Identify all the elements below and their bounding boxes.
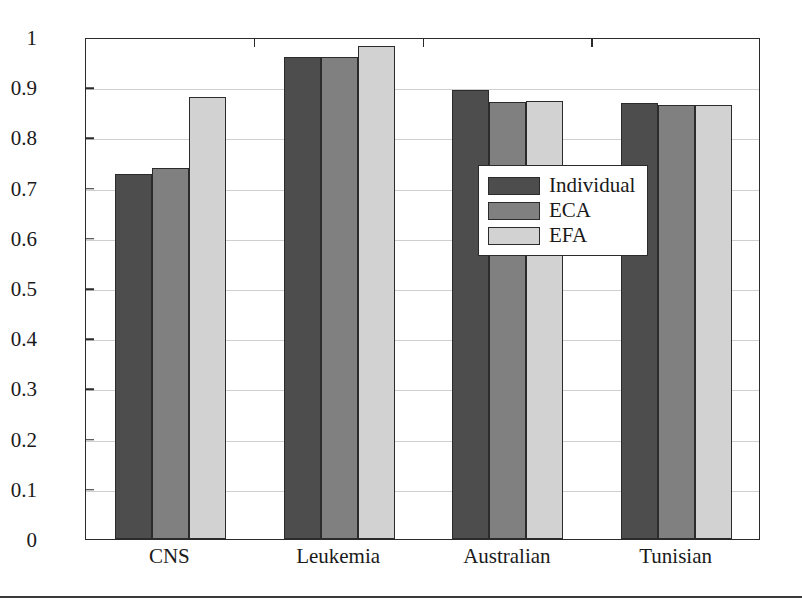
y-axis: 00.10.20.30.40.50.60.70.80.91	[0, 0, 85, 604]
y-axis-tick-label: 1	[27, 28, 38, 49]
y-axis-tick-label: 0.7	[11, 178, 37, 199]
x-axis-tick-label: Leukemia	[296, 546, 380, 567]
y-axis-tick-label: 0.9	[11, 78, 37, 99]
x-axis-tick-label: Tunisian	[639, 546, 712, 567]
y-axis-tick-mark	[85, 389, 94, 391]
x-axis-tick-mark	[591, 38, 593, 47]
gridline	[86, 89, 759, 90]
bar-cns-eca	[152, 168, 189, 539]
medium-gray-swatch	[488, 202, 540, 220]
bar-cns-efa	[189, 97, 226, 539]
y-axis-tick-label: 0.3	[11, 379, 37, 400]
y-axis-tick-label: 0	[27, 530, 38, 551]
chart-legend: IndividualECAEFA	[478, 165, 648, 256]
x-axis-tick-mark	[254, 38, 256, 47]
legend-item-label: ECA	[549, 200, 591, 221]
legend-item: EFA	[488, 223, 635, 248]
bottom-divider-rule	[0, 596, 802, 598]
x-axis-tick-mark	[423, 38, 425, 47]
bar-leukemia-eca	[321, 57, 358, 539]
bar-australian-individual	[452, 90, 489, 539]
y-axis-tick-mark	[85, 338, 94, 340]
y-axis-tick-label: 0.1	[11, 479, 37, 500]
bar-tunisian-efa	[695, 105, 732, 539]
y-axis-tick-label: 0.8	[11, 128, 37, 149]
y-axis-tick-mark	[85, 288, 94, 290]
plot-area	[85, 38, 760, 540]
y-axis-tick-label: 0.2	[11, 429, 37, 450]
y-axis-tick-mark	[85, 87, 94, 89]
legend-item-label: EFA	[549, 225, 587, 246]
y-axis-tick-label: 0.5	[11, 279, 37, 300]
y-axis-tick-label: 0.6	[11, 228, 37, 249]
light-gray-swatch	[488, 227, 540, 245]
dark-gray-swatch	[488, 177, 540, 195]
bar-chart-figure: 00.10.20.30.40.50.60.70.80.91 Individual…	[0, 0, 802, 604]
bar-tunisian-eca	[658, 105, 695, 539]
y-axis-tick-mark	[85, 138, 94, 140]
y-axis-tick-mark	[85, 439, 94, 441]
y-axis-tick-mark	[85, 238, 94, 240]
bar-cns-individual	[115, 174, 152, 539]
legend-item-label: Individual	[549, 175, 635, 196]
bar-leukemia-efa	[358, 46, 395, 539]
x-axis-tick-label: CNS	[149, 546, 190, 567]
y-axis-tick-mark	[85, 188, 94, 190]
y-axis-tick-mark	[85, 489, 94, 491]
x-axis-tick-label: Australian	[463, 546, 550, 567]
legend-item: ECA	[488, 198, 635, 223]
legend-item: Individual	[488, 173, 635, 198]
bar-leukemia-individual	[284, 57, 321, 539]
y-axis-tick-label: 0.4	[11, 329, 37, 350]
